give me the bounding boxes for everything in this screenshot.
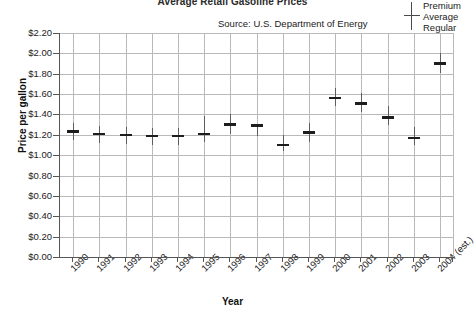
x-axis-title: Year [0, 296, 465, 307]
gridline-vertical [309, 33, 310, 257]
average-price-tick [224, 123, 236, 126]
average-price-tick [408, 137, 420, 140]
gridline-vertical [230, 33, 231, 257]
average-price-tick [329, 97, 341, 100]
y-axis-tick-label: $0.40 [8, 210, 52, 221]
average-price-tick [303, 131, 315, 134]
y-axis-tick-label: $1.40 [8, 108, 52, 119]
average-price-tick [120, 134, 132, 137]
legend-entry-regular: Regular [423, 22, 461, 33]
average-price-tick [251, 124, 263, 127]
gridline-vertical [388, 33, 389, 257]
average-price-tick [355, 102, 367, 105]
legend-entry-average: Average [423, 11, 461, 22]
gridline-vertical [99, 33, 100, 257]
y-axis-tick-label: $1.60 [8, 88, 52, 99]
y-axis-tick-label: $0.60 [8, 190, 52, 201]
legend-entry-premium: Premium [423, 0, 461, 11]
average-price-tick [382, 116, 394, 119]
gridline-vertical [414, 33, 415, 257]
price-range-bar [204, 116, 205, 141]
gridline-vertical [204, 33, 205, 257]
average-price-tick [67, 130, 79, 133]
gridline-vertical [73, 33, 74, 257]
source-note: Source: U.S. Department of Energy [218, 18, 367, 29]
legend-range-marker-icon [404, 2, 420, 32]
gridline-vertical [178, 33, 179, 257]
average-price-tick [198, 133, 210, 136]
y-axis-tick-label: $0.00 [8, 251, 52, 262]
average-price-tick [434, 62, 446, 65]
y-axis-tick-label: $1.80 [8, 68, 52, 79]
chart-title: Average Retail Gasoline Prices [0, 0, 465, 7]
gridline-vertical [453, 33, 454, 257]
gridline-vertical [335, 33, 336, 257]
plot-area [59, 33, 453, 258]
gridline-vertical [361, 33, 362, 257]
average-price-tick [172, 135, 184, 138]
y-axis-tick-label: $0.80 [8, 170, 52, 181]
chart-legend: Premium Average Regular [404, 0, 466, 34]
y-axis-tick-label: $2.20 [8, 27, 52, 38]
average-price-tick [277, 144, 289, 147]
average-price-tick [146, 135, 158, 138]
y-axis-tick-label: $1.00 [8, 149, 52, 160]
y-axis-tick-label: $1.20 [8, 129, 52, 140]
gridline-vertical [257, 33, 258, 257]
legend-labels: Premium Average Regular [423, 0, 461, 34]
y-axis-tick-label: $0.20 [8, 231, 52, 242]
gridline-vertical [152, 33, 153, 257]
price-range-bar [257, 127, 258, 136]
average-price-tick [93, 133, 105, 136]
y-axis-tick-label: $2.00 [8, 47, 52, 58]
gridline-vertical [126, 33, 127, 257]
